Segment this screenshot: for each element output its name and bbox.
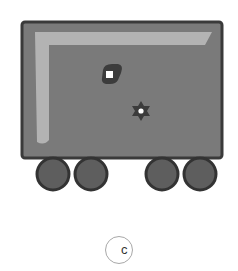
wheel-2 bbox=[75, 158, 107, 190]
wagon-figure bbox=[0, 0, 238, 271]
option-label-circle bbox=[105, 236, 133, 264]
wheel-3 bbox=[146, 158, 178, 190]
option-label: c bbox=[121, 243, 128, 257]
wheel-1 bbox=[37, 158, 69, 190]
wheel-4 bbox=[184, 158, 216, 190]
wheels bbox=[37, 158, 216, 190]
wagon-body bbox=[22, 22, 222, 158]
